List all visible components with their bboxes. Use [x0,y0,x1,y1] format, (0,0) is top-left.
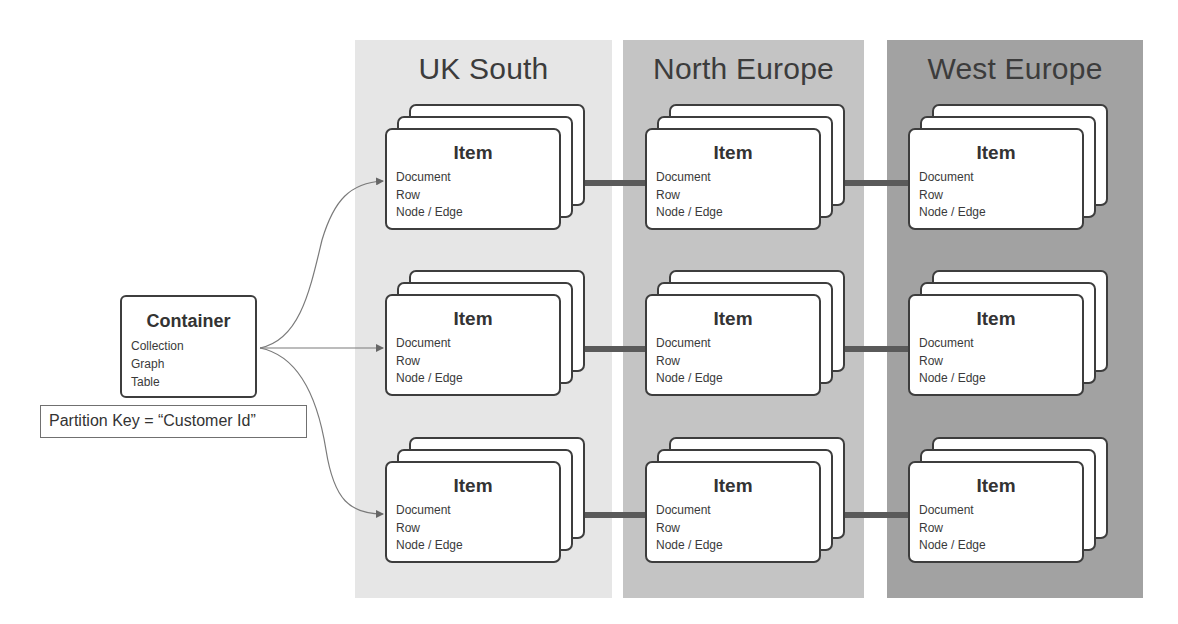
container-type-collection: Collection [131,337,184,355]
partition-key-label: Partition Key = “Customer Id” [40,405,307,438]
container-type-table: Table [131,373,184,391]
container-box: Container Collection Graph Table [120,295,257,398]
container-types: Collection Graph Table [131,337,184,391]
container-type-graph: Graph [131,355,184,373]
container-title: Container [122,311,255,332]
arrow-to-row1 [260,181,383,348]
